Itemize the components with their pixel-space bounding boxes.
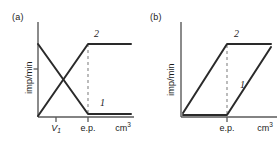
panel-b-xtick-label-ep: e.p. [215, 123, 239, 133]
panel-a-xtick-label-v1: V1 [46, 123, 66, 133]
panel-a-xtick-label-ep: e.p. [76, 123, 100, 133]
panel-a-xtick-v1-sub: 1 [57, 127, 61, 134]
panel-a-plot [0, 0, 139, 142]
panel-b-x-unit-main: cm [257, 123, 269, 133]
panel-a-x-unit-exponent: 3 [127, 121, 131, 128]
panel-b-curve-2-label: 2 [234, 28, 239, 39]
panel-b-curve-1-label: 1 [240, 79, 245, 90]
panel-b: (b) imp/min 2 1 e.p. cm3 [140, 0, 279, 142]
panel-a-curve-1 [38, 44, 131, 114]
panel-b-x-unit-exponent: 3 [269, 121, 273, 128]
panel-a-curve-2 [38, 44, 131, 116]
panel-a-x-axis-unit-label: cm3 [110, 123, 136, 133]
panel-a: (a) imp/min 2 1 V1 e.p. cm3 [0, 0, 139, 142]
panel-b-x-axis-unit-label: cm3 [252, 123, 278, 133]
panel-b-curve-2 [183, 44, 271, 113]
panel-a-curve-2-label: 2 [94, 28, 99, 39]
figure-container: (a) imp/min 2 1 V1 e.p. cm3 [0, 0, 279, 142]
panel-a-x-unit-main: cm [115, 123, 127, 133]
panel-a-curve-1-label: 1 [100, 97, 105, 108]
panel-b-plot [140, 0, 279, 142]
